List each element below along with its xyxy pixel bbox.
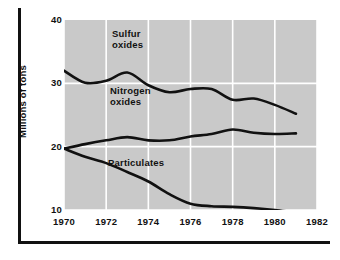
x-tick-1982: 1982 [297, 216, 337, 227]
series-lines [64, 20, 317, 210]
y-tick-40: 40 [14, 15, 62, 25]
series-label-particulates: Particulates [108, 158, 164, 169]
x-tick-1976: 1976 [171, 216, 211, 227]
chart-figure: Millions of tons 10203040 Sulfur oxides … [0, 0, 340, 260]
x-tick-1974: 1974 [128, 216, 168, 227]
x-tick-1978: 1978 [213, 216, 253, 227]
y-tick-20: 20 [14, 142, 62, 152]
y-tick-30: 30 [14, 78, 62, 88]
y-tick-labels: 10203040 [8, 0, 62, 210]
series-label-sulfur-oxides: Sulfur oxides [112, 29, 143, 50]
x-axis-rule [18, 241, 330, 244]
x-tick-1970: 1970 [44, 216, 84, 227]
x-tick-1972: 1972 [86, 216, 126, 227]
series-label-nitrogen-oxides: Nitrogen oxides [110, 86, 151, 107]
plot-panel: Sulfur oxides Nitrogen oxides Particulat… [64, 20, 317, 210]
y-tick-10: 10 [14, 205, 62, 215]
x-tick-1980: 1980 [255, 216, 295, 227]
